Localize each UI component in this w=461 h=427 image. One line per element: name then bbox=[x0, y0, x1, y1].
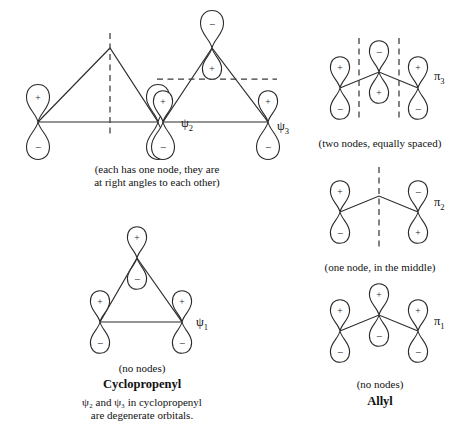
pi1-right-top-sign: + bbox=[415, 306, 420, 316]
pi1-lobe-center-top: + bbox=[369, 284, 388, 315]
psi3-apex-top-sign: − bbox=[209, 18, 215, 30]
psi1-left-bottom-sign: − bbox=[97, 337, 103, 349]
orbital-pi1: + − + − + − π1 bbox=[330, 284, 444, 363]
pi2-label: π2 bbox=[434, 195, 445, 212]
psi1-lobe-apex-top: + bbox=[127, 227, 146, 258]
pi3-right-top-sign: + bbox=[415, 63, 420, 73]
pi3-center-bottom-sign: + bbox=[376, 88, 381, 98]
caption-degenerate-line1: ψ₂ and ψ₃ in cyclopropenyl bbox=[42, 396, 242, 409]
pi2-left-bottom-sign: − bbox=[337, 227, 343, 239]
caption-degenerate-note-line1: (each has one node, they are bbox=[42, 163, 272, 176]
pi3-center-top-sign: − bbox=[376, 46, 382, 58]
psi1-lobe-right-bottom: − bbox=[172, 322, 191, 353]
psi2-left-top-sign: + bbox=[35, 93, 40, 103]
mo-diagram-figure: + − − + ψ2 − bbox=[0, 0, 461, 427]
pi1-lobe-left-top: + bbox=[330, 300, 349, 331]
heading-allyl: Allyl bbox=[300, 394, 460, 409]
psi3-lobe-apex-bottom: + bbox=[202, 48, 221, 79]
psi1-right-top-sign: + bbox=[179, 297, 184, 307]
orbital-pi2: + − − + π2 bbox=[330, 167, 444, 247]
caption-pi3-nodes: (two nodes, equally spaced) bbox=[300, 137, 460, 150]
pi1-left-top-sign: + bbox=[337, 306, 342, 316]
caption-psi1-nodes: (no nodes) bbox=[62, 362, 222, 375]
orbital-psi1: + − + − + − ψ1 bbox=[90, 227, 208, 354]
psi1-lobe-apex-bottom: − bbox=[127, 258, 146, 289]
pi3-label: π3 bbox=[434, 69, 445, 86]
pi2-right-bottom-sign: + bbox=[415, 228, 420, 238]
pi2-lobe-left-bottom: − bbox=[330, 212, 349, 243]
caption-pi1-nodes: (no nodes) bbox=[300, 378, 460, 391]
pi2-lobe-right-top: − bbox=[408, 181, 427, 212]
pi2-lobe-left-top: + bbox=[330, 181, 349, 212]
psi3-left-bottom-sign: − bbox=[160, 141, 166, 153]
psi1-label: ψ1 bbox=[196, 315, 208, 332]
pi3-lobe-right-bottom: − bbox=[408, 88, 427, 119]
psi1-lobe-left-top: + bbox=[90, 291, 109, 322]
pi1-right-bottom-sign: − bbox=[415, 346, 421, 358]
caption-degenerate-line2: are degenerate orbitals. bbox=[42, 409, 242, 422]
pi3-lobe-left-top: + bbox=[330, 57, 349, 88]
psi1-lobe-right-top: + bbox=[172, 291, 191, 322]
pi2-left-top-sign: + bbox=[337, 187, 342, 197]
psi3-right-top-sign: + bbox=[265, 97, 270, 107]
caption-degenerate-note-line2: at right angles to each other) bbox=[42, 176, 272, 189]
psi1-lobe-left-bottom: − bbox=[90, 322, 109, 353]
psi3-lobe-right-top: + bbox=[258, 91, 277, 122]
psi2-label: ψ2 bbox=[181, 116, 193, 133]
pi1-lobe-left-bottom: − bbox=[330, 331, 349, 362]
pi3-lobe-right-top: + bbox=[408, 57, 427, 88]
pi3-right-bottom-sign: − bbox=[415, 103, 421, 115]
psi1-left-top-sign: + bbox=[97, 297, 102, 307]
psi3-apex-bottom-sign: + bbox=[209, 64, 214, 74]
heading-cyclopropenyl: Cyclopropenyl bbox=[62, 377, 222, 392]
psi2-lobe-left-top: + bbox=[27, 85, 50, 123]
pi1-lobe-center-bottom: − bbox=[369, 315, 388, 346]
psi3-right-bottom-sign: − bbox=[265, 141, 271, 153]
psi1-apex-top-sign: + bbox=[134, 233, 139, 243]
pi2-lobe-right-bottom: + bbox=[408, 212, 427, 243]
pi3-lobe-center-bottom: + bbox=[369, 72, 388, 103]
psi3-left-top-sign: + bbox=[160, 97, 165, 107]
pi1-center-bottom-sign: − bbox=[376, 330, 382, 342]
psi1-right-bottom-sign: − bbox=[179, 337, 185, 349]
psi2-left-bottom-sign: − bbox=[35, 141, 41, 153]
pi1-center-top-sign: + bbox=[376, 290, 381, 300]
pi1-lobe-right-top: + bbox=[408, 300, 427, 331]
orbital-psi3: − + + − + − ψ3 bbox=[152, 11, 290, 160]
psi2-ring-bonds bbox=[38, 48, 158, 122]
pi1-lobe-right-bottom: − bbox=[408, 331, 427, 362]
pi3-lobe-left-bottom: − bbox=[330, 88, 349, 119]
psi3-label: ψ3 bbox=[277, 119, 289, 136]
orbital-pi3: + − − + + − π3 bbox=[330, 38, 444, 120]
psi3-lobe-apex-top: − bbox=[201, 11, 224, 49]
pi3-left-top-sign: + bbox=[337, 63, 342, 73]
pi3-lobe-center-top: − bbox=[369, 41, 388, 72]
psi1-apex-bottom-sign: − bbox=[134, 273, 140, 285]
pi3-left-bottom-sign: − bbox=[337, 103, 343, 115]
pi2-right-top-sign: − bbox=[415, 186, 421, 198]
pi1-left-bottom-sign: − bbox=[337, 346, 343, 358]
pi1-label: π1 bbox=[434, 314, 445, 331]
psi2-lobe-left-bottom: − bbox=[27, 122, 50, 160]
caption-pi2-nodes: (one node, in the middle) bbox=[300, 261, 460, 274]
